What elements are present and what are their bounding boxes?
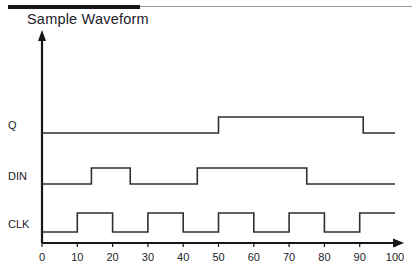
signal-label-clk: CLK [8,218,30,230]
waveform-page: Sample Waveform 0102030405060708090100 Q… [0,0,420,268]
x-tick-label-80: 80 [318,251,330,263]
x-axis-tick-labels: 0102030405060708090100 [39,251,404,263]
y-axis-arrow-icon [38,30,46,41]
waveform-q [42,117,395,133]
x-tick-label-100: 100 [386,251,404,263]
x-tick-label-40: 40 [177,251,189,263]
signal-labels: QDINCLK [8,119,30,230]
waveform-clk [42,213,395,232]
waveform-chart: 0102030405060708090100 QDINCLK [0,0,420,268]
signal-label-q: Q [8,119,17,131]
waveform-din [42,168,395,184]
x-tick-label-50: 50 [212,251,224,263]
signal-label-din: DIN [8,170,27,182]
x-tick-label-60: 60 [248,251,260,263]
x-tick-label-90: 90 [354,251,366,263]
x-tick-label-70: 70 [283,251,295,263]
signal-waveforms [42,117,395,232]
x-tick-label-10: 10 [71,251,83,263]
x-tick-label-30: 30 [142,251,154,263]
x-tick-label-0: 0 [39,251,45,263]
x-tick-label-20: 20 [106,251,118,263]
